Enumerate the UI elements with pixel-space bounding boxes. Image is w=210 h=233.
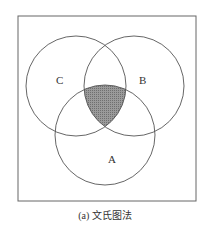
label-c: C xyxy=(56,74,63,86)
venn-diagram: C B A xyxy=(0,0,210,233)
label-a: A xyxy=(108,153,116,165)
figure-caption: (a) 文氏图法 xyxy=(0,207,210,222)
shaded-intersection xyxy=(26,36,126,136)
label-b: B xyxy=(139,74,146,86)
